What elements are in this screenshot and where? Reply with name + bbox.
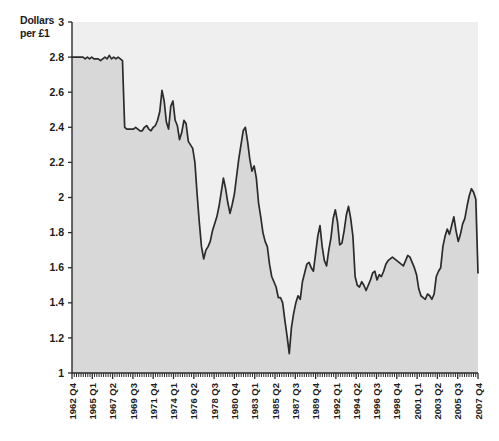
y-tick-label: 2.2 <box>49 156 64 168</box>
x-tick-label: 1974 Q1 <box>168 382 179 419</box>
y-tick-label: 1.8 <box>49 226 64 238</box>
x-tick-label: 1994 Q2 <box>351 383 362 419</box>
x-tick-label: 1998 Q4 <box>391 382 402 419</box>
x-tick-label: 2005 Q3 <box>452 383 463 419</box>
x-axis-tick-labels: 1962 Q41965 Q11967 Q21969 Q31971 Q41974 … <box>67 382 484 419</box>
x-tick-label: 1983 Q1 <box>249 382 260 419</box>
y-tick-label: 1.4 <box>49 296 64 308</box>
x-tick-label: 1971 Q4 <box>148 382 159 419</box>
x-tick-label: 1965 Q1 <box>87 382 98 419</box>
y-axis-title: Dollars per £1 <box>20 14 68 39</box>
exchange-rate-chart: Dollars per £1 11.21.41.61.822.22.42.62.… <box>0 0 499 441</box>
y-tick-label: 2 <box>58 191 64 203</box>
x-tick-label: 1967 Q2 <box>107 383 118 419</box>
y-tick-label: 2.8 <box>49 51 64 63</box>
x-tick-label: 1992 Q1 <box>331 382 342 419</box>
x-tick-label: 1978 Q3 <box>209 383 220 419</box>
y-tick-label: 2.4 <box>49 121 64 133</box>
x-tick-label: 1962 Q4 <box>67 382 78 419</box>
y-tick-label: 1.2 <box>49 332 64 344</box>
x-tick-label: 1980 Q4 <box>229 382 240 419</box>
y-tick-label: 1 <box>58 367 64 379</box>
x-tick-label: 1969 Q3 <box>128 383 139 419</box>
x-tick-label: 1985 Q2 <box>270 383 281 419</box>
x-tick-label: 2007 Q4 <box>473 382 484 419</box>
x-tick-label: 2003 Q2 <box>432 383 443 419</box>
x-tick-label: 1976 Q2 <box>188 383 199 419</box>
y-tick-label: 1.6 <box>49 261 64 273</box>
y-axis-title-text: Dollars per £1 <box>20 14 54 39</box>
x-tick-label: 2001 Q1 <box>412 382 423 419</box>
x-tick-label: 1987 Q3 <box>290 383 301 419</box>
y-tick-label: 2.6 <box>49 86 64 98</box>
x-tick-label: 1989 Q4 <box>310 382 321 419</box>
x-axis <box>72 373 478 379</box>
chart-canvas: 11.21.41.61.822.22.42.62.83 1962 Q41965 … <box>0 0 499 441</box>
x-tick-label: 1996 Q3 <box>371 383 382 419</box>
